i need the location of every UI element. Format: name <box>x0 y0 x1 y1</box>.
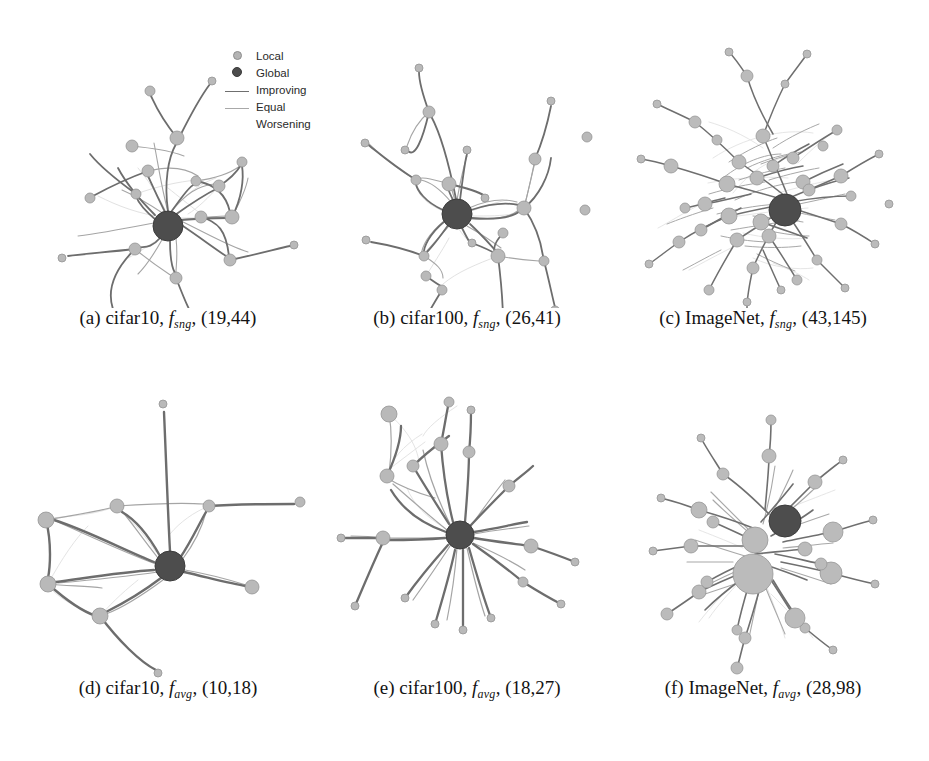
legend-row-local: Local <box>222 48 342 65</box>
panel-b-caption-prefix: (b) cifar100, <box>373 307 473 328</box>
legend-row-global: Global <box>222 65 342 82</box>
panel-b-caption: (b) cifar100, fsng, (26,41) <box>317 306 617 332</box>
panel-d-graph <box>18 388 318 678</box>
worsening-edge-icon <box>222 116 252 133</box>
panel-d-caption-suffix: , (10,18) <box>192 677 257 698</box>
legend-label-improving: Improving <box>252 82 307 99</box>
panel-d: (d) cifar10, favg, (10,18) <box>18 388 318 718</box>
panel-a-objective: fsng <box>169 307 192 328</box>
panel-c-graph <box>613 18 913 308</box>
panel-b-objective: fsng <box>473 307 496 328</box>
panel-a-caption-prefix: (a) cifar10, <box>80 307 169 328</box>
graph-legend: Local Global Improving Equal Worsening <box>222 48 342 138</box>
global-node-icon <box>222 65 252 82</box>
legend-label-equal: Equal <box>252 99 285 116</box>
panel-e-caption-prefix: (e) cifar100, <box>373 677 472 698</box>
panel-a-caption: (a) cifar10, fsng, (19,44) <box>18 306 318 332</box>
panel-c-caption: (c) ImageNet, fsng, (43,145) <box>613 306 913 332</box>
local-node-icon <box>222 48 252 65</box>
panel-c-objective: fsng <box>769 307 792 328</box>
panel-d-objective: favg <box>169 677 193 698</box>
improving-edge-icon <box>222 82 252 99</box>
panel-e: (e) cifar100, favg, (18,27) <box>317 388 617 718</box>
panel-f: (f) ImageNet, favg, (28,98) <box>613 388 913 718</box>
equal-edge-icon <box>222 99 252 116</box>
panel-e-graph <box>317 388 617 678</box>
panel-f-graph <box>613 388 913 678</box>
legend-label-global: Global <box>252 65 289 82</box>
panel-b-caption-suffix: , (26,41) <box>496 307 561 328</box>
figure-container: (a) cifar10, fsng, (19,44) <box>0 0 929 761</box>
panel-e-objective: favg <box>472 677 496 698</box>
panel-a-caption-suffix: , (19,44) <box>192 307 257 328</box>
legend-row-worsening: Worsening <box>222 116 342 133</box>
panel-c-caption-prefix: (c) ImageNet, <box>659 307 769 328</box>
panel-f-objective: favg <box>773 677 797 698</box>
panel-e-caption: (e) cifar100, favg, (18,27) <box>317 676 617 702</box>
panel-b-graph <box>317 18 617 308</box>
panel-e-caption-suffix: , (18,27) <box>496 677 561 698</box>
panel-d-caption-prefix: (d) cifar10, <box>79 677 169 698</box>
panel-b: (b) cifar100, fsng, (26,41) <box>317 18 617 348</box>
legend-label-worsening: Worsening <box>252 116 311 133</box>
legend-row-equal: Equal <box>222 99 342 116</box>
panel-d-caption: (d) cifar10, favg, (10,18) <box>18 676 318 702</box>
panel-c: (c) ImageNet, fsng, (43,145) <box>613 18 913 348</box>
panel-f-caption-suffix: , (28,98) <box>796 677 861 698</box>
panel-f-caption: (f) ImageNet, favg, (28,98) <box>613 676 913 702</box>
panel-f-caption-prefix: (f) ImageNet, <box>665 677 773 698</box>
legend-label-local: Local <box>252 48 284 65</box>
legend-row-improving: Improving <box>222 82 342 99</box>
panel-c-caption-suffix: , (43,145) <box>792 307 866 328</box>
